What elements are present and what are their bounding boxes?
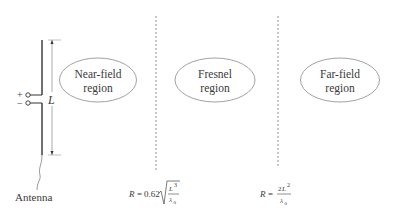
terminal-plus-icon — [26, 93, 30, 97]
formula1-denominator-sub: 0 — [174, 200, 177, 205]
far-field-boundary-formula: R = 2 L 2 λ 0 — [259, 182, 291, 206]
formula1-coef: 0.62 — [144, 189, 160, 199]
near-field-label-line1: Near-field — [74, 68, 121, 80]
terminal-minus-icon — [26, 101, 30, 105]
formula1-eq: = — [137, 189, 142, 199]
formula2-denominator-sub: 0 — [285, 201, 288, 206]
formula2-lhs: R — [259, 189, 266, 199]
formula1-numerator: L — [168, 185, 173, 193]
formula1-lhs: R — [128, 189, 135, 199]
fresnel-label-line2: region — [200, 82, 230, 95]
fresnel-label-line1: Fresnel — [198, 68, 232, 80]
antenna-label: Antenna — [15, 191, 52, 203]
formula2-eq: = — [268, 189, 273, 199]
antenna: + − L Antenna — [15, 40, 61, 203]
arrow-up-icon — [51, 40, 54, 44]
arrow-down-icon — [51, 151, 54, 155]
fresnel-ellipse — [175, 58, 255, 102]
fresnel-boundary-formula: R = 0.62 L 3 λ 0 — [128, 181, 180, 205]
length-label: L — [47, 93, 55, 107]
fresnel-region: Fresnel region — [175, 58, 255, 102]
formula1-numerator-exp: 3 — [174, 182, 177, 188]
near-field-label-line2: region — [83, 82, 113, 95]
formula2-denominator: λ — [279, 197, 283, 205]
antenna-leader-line — [37, 155, 42, 190]
antenna-field-regions-diagram: + − L Antenna Near-field region Fresnel … — [0, 0, 395, 221]
formula2-numerator: L — [281, 185, 286, 193]
minus-sign: − — [17, 98, 23, 109]
far-field-ellipse — [301, 58, 380, 102]
near-field-ellipse — [60, 58, 137, 102]
far-field-label-line1: Far-field — [320, 68, 360, 80]
far-field-region: Far-field region — [301, 58, 380, 102]
formula1-denominator: λ — [168, 196, 172, 204]
far-field-label-line2: region — [325, 82, 355, 95]
formula2-numerator-exp: 2 — [287, 182, 290, 188]
near-field-region: Near-field region — [60, 58, 137, 102]
